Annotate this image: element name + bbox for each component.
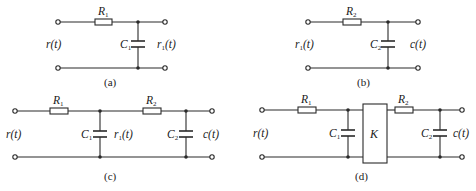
- output-terminal: [210, 109, 214, 113]
- junction-node: [346, 108, 350, 112]
- junction-node: [184, 109, 188, 113]
- junction-node: [386, 66, 390, 70]
- resistor-r2: [395, 107, 413, 113]
- panel-caption: (b): [357, 76, 370, 89]
- resistor-label: R1: [300, 93, 312, 107]
- input-terminal: [306, 66, 310, 70]
- input-signal-label: r1(t): [295, 38, 314, 52]
- capacitor-label: C2: [370, 38, 382, 52]
- capacitor-label: C1: [329, 127, 341, 141]
- panel-caption: (a): [104, 76, 117, 89]
- capacitor-label: C1: [120, 38, 132, 52]
- junction-node: [184, 155, 188, 159]
- output-terminal: [416, 20, 420, 24]
- junction-node: [438, 155, 442, 159]
- output-terminal: [460, 155, 464, 159]
- resistor-label: R1: [97, 5, 109, 19]
- output-terminal: [163, 66, 167, 70]
- resistor-label: R1: [52, 94, 64, 108]
- output-terminal: [460, 108, 464, 112]
- junction-node: [136, 66, 140, 70]
- input-terminal: [260, 155, 264, 159]
- junction-node: [438, 108, 442, 112]
- output-terminal: [163, 20, 167, 24]
- block-label: K: [369, 127, 379, 141]
- junction-node: [136, 20, 140, 24]
- circuit-panel-b: R2 C2 r1(t) c(t) (b): [295, 5, 426, 89]
- output-signal-label: c(t): [410, 38, 426, 51]
- input-signal-label: r(t): [46, 38, 62, 51]
- input-terminal: [56, 20, 60, 24]
- resistor-label: R2: [397, 93, 409, 107]
- junction-node: [98, 109, 102, 113]
- output-terminal: [416, 66, 420, 70]
- resistor-r2: [143, 108, 161, 114]
- panel-caption: (d): [355, 170, 368, 183]
- input-signal-label: r(t): [253, 127, 269, 140]
- junction-node: [346, 155, 350, 159]
- input-terminal: [260, 108, 264, 112]
- input-signal-label: r(t): [6, 128, 22, 141]
- panel-caption: (c): [104, 170, 117, 183]
- resistor-label: R2: [145, 94, 157, 108]
- intermediate-signal-label: r1(t): [114, 128, 133, 142]
- capacitor-label: C2: [167, 128, 179, 142]
- resistor-r1: [95, 19, 112, 25]
- output-signal-label: c(t): [453, 127, 469, 140]
- output-terminal: [210, 155, 214, 159]
- circuit-figure: R1 C1 r(t) r1(t) (a) R2 C2 r1(t) c(t) (b…: [0, 0, 476, 191]
- resistor-r1: [50, 108, 68, 114]
- output-signal-label: c(t): [203, 128, 219, 141]
- input-terminal: [13, 155, 17, 159]
- resistor-label: R2: [345, 5, 357, 19]
- junction-node: [98, 155, 102, 159]
- resistor-r2: [343, 19, 361, 25]
- circuit-panel-a: R1 C1 r(t) r1(t) (a): [46, 5, 176, 89]
- capacitor-label: C1: [81, 128, 93, 142]
- circuit-panel-d: R1 R2 C1 C2 K r(t) c(t) (d): [253, 93, 469, 183]
- input-terminal: [56, 66, 60, 70]
- input-terminal: [306, 20, 310, 24]
- input-terminal: [13, 109, 17, 113]
- resistor-r1: [298, 107, 316, 113]
- circuit-panel-c: R1 R2 C1 C2 r(t) r1(t) c(t) (c): [6, 94, 219, 183]
- junction-node: [386, 20, 390, 24]
- capacitor-label: C2: [421, 127, 433, 141]
- output-signal-label: r1(t): [157, 38, 176, 52]
